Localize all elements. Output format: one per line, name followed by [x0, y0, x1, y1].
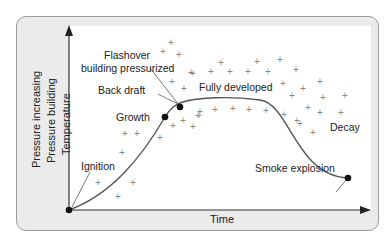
svg-text:+: +	[130, 177, 136, 188]
svg-text:+: +	[212, 104, 218, 115]
svg-text:+: +	[281, 109, 287, 120]
svg-text:+: +	[230, 103, 236, 114]
svg-text:+: +	[246, 104, 252, 115]
label-growth: Growth	[116, 111, 150, 123]
label-building-pressurized: building pressurized	[81, 62, 174, 74]
label-fully-developed: Fully developed	[199, 81, 273, 93]
svg-text:+: +	[95, 177, 101, 188]
svg-text:+: +	[342, 90, 348, 101]
y-axis-arrow-icon	[65, 25, 73, 36]
svg-text:+: +	[310, 127, 316, 138]
svg-text:+: +	[245, 66, 251, 77]
label-back-draft: Back draft	[98, 84, 145, 96]
svg-text:+: +	[169, 76, 175, 87]
svg-text:+: +	[115, 191, 121, 202]
y-axis-label-group: Pressure increasing Pressure building Te…	[30, 60, 90, 170]
svg-text:+: +	[227, 66, 233, 77]
svg-text:+: +	[317, 107, 323, 118]
label-decay: Decay	[330, 121, 360, 133]
svg-text:+: +	[157, 132, 163, 143]
svg-text:+: +	[297, 118, 303, 129]
y-axis-label-temperature: Temperature	[60, 93, 72, 155]
smoke-explosion-marker	[345, 175, 352, 182]
svg-text:+: +	[168, 37, 174, 48]
svg-text:+: +	[280, 78, 286, 89]
fire-curve	[69, 98, 348, 210]
svg-text:+: +	[265, 66, 271, 77]
svg-text:+: +	[176, 49, 182, 60]
y-axis-label-pressure-building: Pressure building	[45, 78, 57, 163]
svg-text:+: +	[190, 68, 196, 79]
svg-text:+: +	[208, 66, 214, 77]
growth-marker	[162, 114, 169, 121]
label-flashover: Flashover	[104, 49, 150, 61]
ignition-marker	[66, 207, 73, 214]
svg-text:+: +	[263, 105, 269, 116]
x-axis-arrow-icon	[360, 206, 371, 214]
svg-text:+: +	[180, 115, 186, 126]
svg-text:+: +	[134, 128, 140, 139]
svg-text:+: +	[254, 56, 260, 67]
svg-text:+: +	[317, 76, 323, 87]
x-axis-label: Time	[210, 213, 234, 225]
svg-text:+: +	[190, 121, 196, 132]
label-ignition: Ignition	[81, 160, 115, 172]
svg-text:+: +	[218, 57, 224, 68]
svg-text:+: +	[338, 107, 344, 118]
svg-text:+: +	[289, 90, 295, 101]
svg-text:+: +	[300, 83, 306, 94]
svg-text:+: +	[170, 120, 176, 131]
svg-text:+: +	[293, 64, 299, 75]
svg-text:+: +	[160, 46, 166, 57]
svg-text:+: +	[119, 147, 125, 158]
svg-text:+: +	[197, 106, 203, 117]
flashover-marker	[177, 104, 184, 111]
label-smoke-explosion: Smoke explosion	[255, 162, 335, 174]
svg-text:+: +	[122, 128, 128, 139]
svg-text:+: +	[320, 92, 326, 103]
svg-text:+: +	[181, 83, 187, 94]
svg-text:+: +	[305, 102, 311, 113]
svg-text:+: +	[277, 54, 283, 65]
y-axis-label-pressure-increasing: Pressure increasing	[30, 71, 42, 168]
